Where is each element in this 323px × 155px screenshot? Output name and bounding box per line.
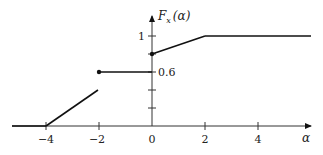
x-tick-label: −2 bbox=[89, 133, 105, 146]
x-tick-label: 2 bbox=[202, 133, 209, 146]
cdf-line bbox=[12, 36, 311, 126]
x-axis-label: α bbox=[302, 131, 310, 145]
y-tick-label: 1 bbox=[138, 30, 145, 43]
point-0 bbox=[150, 52, 154, 56]
x-tick-label: 4 bbox=[255, 133, 262, 146]
cdf-chart: −4 −2 0 2 4 1 0.6 Fx(α) α bbox=[0, 0, 323, 155]
y-tick-label: 0.6 bbox=[158, 66, 176, 79]
x-tick-label: −4 bbox=[38, 133, 54, 146]
y-axis-label: Fx(α) bbox=[157, 9, 191, 25]
point-m2 bbox=[97, 70, 101, 74]
x-tick-label: 0 bbox=[149, 133, 156, 146]
